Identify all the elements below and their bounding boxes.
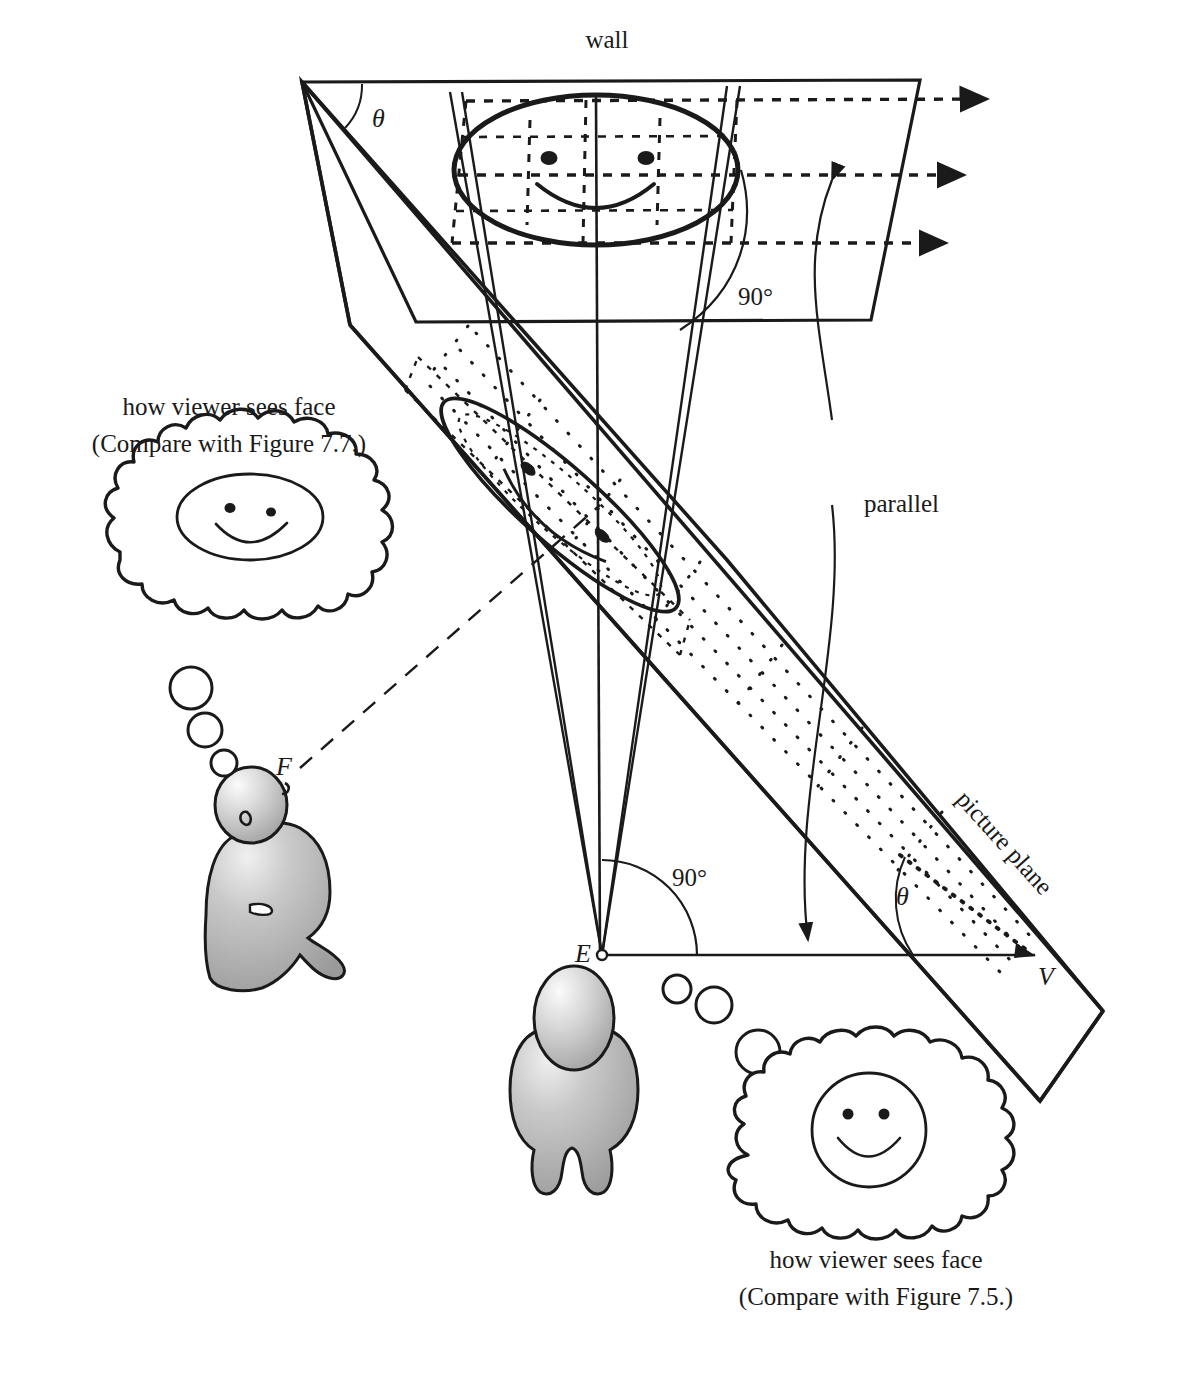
viewer-left-figure	[205, 767, 344, 991]
wall-face-left-eye	[541, 151, 558, 165]
wall-face-right-eye	[638, 151, 655, 165]
right-caption-line1: how viewer sees face	[769, 1246, 982, 1273]
label-theta-wall: θ	[372, 104, 385, 133]
perspective-diagram: 90° θ	[0, 0, 1182, 1384]
right-bubble-face-left-eye	[843, 1109, 854, 1120]
projected-face-inner-guide	[442, 396, 678, 614]
right-bubble-dot-2	[696, 987, 732, 1023]
wall-plane	[302, 80, 920, 322]
projected-face-frame	[405, 357, 690, 655]
viewer-right-figure	[510, 950, 638, 1194]
label-wall: wall	[585, 26, 628, 53]
left-bubble-dot-2	[188, 713, 222, 747]
label-point-E: E	[574, 939, 591, 968]
picture-plane-projection-band	[430, 333, 1032, 974]
right-bubble-cloud	[728, 1027, 1014, 1239]
left-bubble-dot-3	[211, 750, 237, 776]
right-bubble-dot-1	[663, 975, 691, 1003]
label-point-F: F	[275, 752, 293, 781]
wall-quad	[302, 80, 920, 322]
left-thought-bubble	[105, 409, 392, 776]
picture-plane-right-edge	[1040, 1011, 1103, 1101]
label-point-V: V	[1038, 962, 1057, 991]
label-right-angle-wall: 90°	[738, 283, 773, 310]
label-picture-plane: picture plane	[951, 785, 1058, 900]
diagram-canvas: 90° θ	[0, 0, 1182, 1384]
left-caption-line1: how viewer sees face	[122, 393, 335, 420]
vanishing-ray-arrowhead	[1014, 943, 1036, 958]
viewer-left-head	[215, 767, 287, 843]
right-caption-line2: (Compare with Figure 7.5.)	[739, 1283, 1013, 1311]
viewer-left-hand	[250, 904, 272, 915]
left-caption-line2: (Compare with Figure 7.7.)	[92, 430, 366, 458]
projected-face-right-eye	[592, 526, 612, 545]
left-bubble-face-left-eye	[225, 503, 236, 513]
left-bubble-dot-1	[170, 667, 212, 709]
label-right-angle-ground: 90°	[672, 864, 707, 891]
picture-plane-projection-band-cross	[424, 326, 942, 870]
viewer-right-eye-point	[597, 950, 607, 960]
right-bubble-face-right-eye	[879, 1109, 890, 1120]
viewer-right-head	[534, 966, 614, 1070]
viewer-left-body	[205, 823, 344, 991]
label-parallel: parallel	[864, 490, 939, 517]
label-theta-ground: θ	[896, 882, 909, 911]
left-bubble-face-right-eye	[266, 508, 276, 517]
